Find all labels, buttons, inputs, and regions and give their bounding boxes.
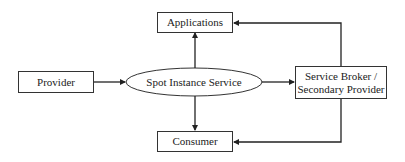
service-broker-label-line2: Secondary Provider bbox=[297, 83, 384, 96]
provider-label: Provider bbox=[37, 76, 75, 89]
consumer-label: Consumer bbox=[172, 135, 217, 148]
edge-broker-to-consumer bbox=[234, 99, 341, 142]
applications-label: Applications bbox=[167, 16, 223, 29]
applications-node: Applications bbox=[157, 12, 233, 33]
spot-instance-service-label: Spot Instance Service bbox=[146, 76, 241, 88]
spot-instance-service-node: Spot Instance Service bbox=[126, 68, 262, 96]
service-broker-label-line1: Service Broker / bbox=[305, 70, 377, 83]
service-broker-node: Service Broker / Secondary Provider bbox=[295, 66, 387, 99]
edge-broker-to-applications bbox=[234, 23, 341, 66]
consumer-node: Consumer bbox=[157, 131, 233, 152]
provider-node: Provider bbox=[18, 71, 94, 93]
